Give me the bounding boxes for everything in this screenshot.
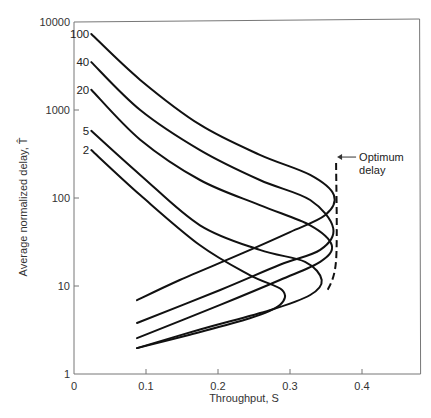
optimum-delay-line [327,163,337,292]
chart: 00.10.20.30.4110100100010000 100402052 O… [0,0,431,418]
curve-label-40: 40 [76,56,89,68]
x-tick-label: 0 [71,380,77,392]
y-tick-label: 10000 [39,16,70,28]
y-tick-label: 100 [52,192,70,204]
x-tick-label: 0.2 [210,380,225,392]
y-tick-label: 1 [64,368,70,380]
y-tick-label: 1000 [46,104,70,116]
x-tick-label: 0.4 [354,380,369,392]
curve-40 [91,62,333,323]
curve-label-5: 5 [83,125,89,137]
arrow-icon [337,154,342,160]
curve-5 [91,131,322,348]
curve-label-2: 2 [83,144,89,156]
curve-label-20: 20 [76,84,89,96]
x-axis-label: Throughput, S [209,392,279,404]
plot-frame [74,19,421,374]
optimum-delay-label: Optimum [359,151,404,163]
optimum-delay-label: delay [359,164,386,176]
y-axis-label: Average normalized delay, T̂ [16,137,29,276]
y-tick-label: 10 [58,280,70,292]
x-tick-label: 0.3 [282,380,297,392]
x-tick-label: 0.1 [138,380,153,392]
curve-label-100: 100 [70,28,89,40]
